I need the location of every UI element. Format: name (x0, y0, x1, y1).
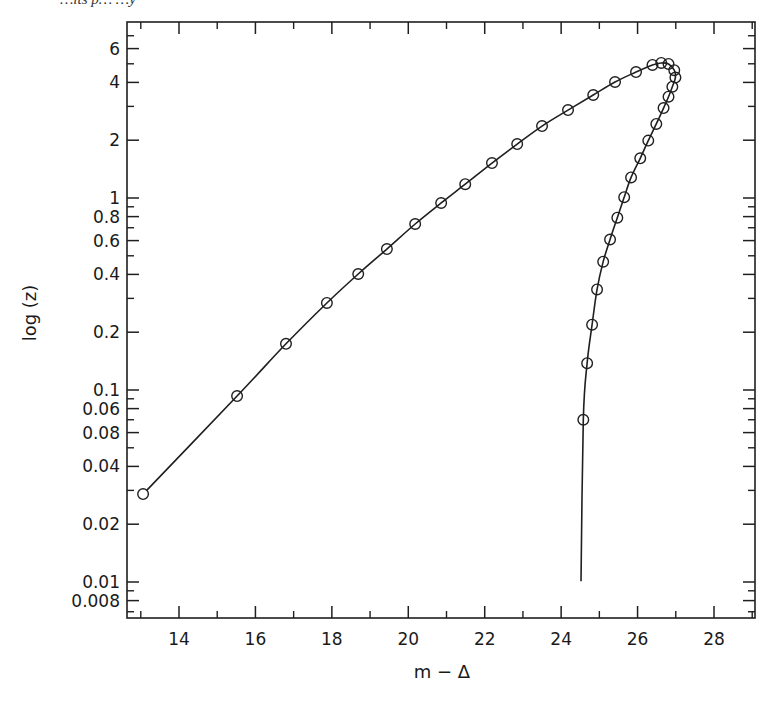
x-tick-label: 16 (245, 629, 267, 649)
y-tick-label: 0.2 (93, 322, 120, 342)
y-tick-label: 0.1 (93, 380, 120, 400)
y-tick-label: 6 (109, 39, 120, 59)
x-tick-label: 20 (397, 629, 419, 649)
y-tick-label: 0.08 (82, 423, 120, 443)
y-tick-label: 0.04 (82, 456, 120, 476)
data-series-curve (143, 63, 675, 581)
y-tick-label: 0.6 (93, 231, 120, 251)
y-tick-label: 0.4 (93, 264, 120, 284)
series-line (143, 63, 675, 581)
x-tick-label: 18 (321, 629, 343, 649)
y-tick-label: 1 (109, 188, 120, 208)
y-tick-label: 4 (109, 72, 120, 92)
x-tick-label: 14 (168, 629, 190, 649)
x-tick-label: 22 (474, 629, 496, 649)
x-axis-label: m − Δ (414, 661, 471, 682)
x-tick-label: 26 (627, 629, 649, 649)
x-tick-label: 28 (703, 629, 725, 649)
y-axis-ticks: 64210.80.60.40.20.10.060.080.040.020.010… (71, 36, 755, 612)
y-tick-label: 0.06 (82, 399, 120, 419)
y-axis-label: log (z) (19, 285, 40, 342)
x-tick-label: 24 (550, 629, 572, 649)
chart: 1416182022242628 64210.80.60.40.20.10.06… (0, 0, 771, 702)
y-tick-label: 0.02 (82, 514, 120, 534)
plot-border (127, 22, 755, 618)
y-tick-label: 0.01 (82, 572, 120, 592)
plot-frame (127, 22, 755, 618)
y-tick-label: 0.008 (71, 591, 120, 611)
open-circle-marker (138, 489, 149, 500)
y-tick-label: 0.8 (93, 207, 120, 227)
y-tick-label: 2 (109, 130, 120, 150)
